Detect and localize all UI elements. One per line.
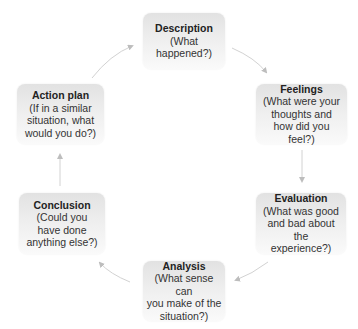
node-description: Description (What happened?) bbox=[143, 13, 225, 69]
node-desc-line: (What bbox=[170, 35, 198, 48]
arrow-description-to-feelings bbox=[232, 48, 266, 72]
node-conclusion: Conclusion (Could you have done anything… bbox=[19, 193, 105, 254]
node-desc-line: (Could you bbox=[37, 211, 88, 224]
node-desc-line: how did you feel?) bbox=[259, 120, 344, 145]
node-desc-line: have done bbox=[37, 224, 86, 237]
node-feelings: Feelings (What were your thoughts and ho… bbox=[256, 84, 347, 144]
arrow-action-to-description bbox=[92, 46, 132, 78]
node-title: Action plan bbox=[32, 89, 89, 102]
node-title: Description bbox=[155, 22, 213, 35]
node-evaluation: Evaluation (What was good and bad about … bbox=[256, 193, 346, 254]
node-action-plan: Action plan (If in a similar situation, … bbox=[17, 84, 104, 144]
node-desc-line: (If in a similar bbox=[29, 102, 91, 115]
node-desc-line: experience?) bbox=[271, 242, 332, 255]
node-desc-line: (What was good bbox=[263, 205, 339, 218]
node-title: Evaluation bbox=[274, 192, 327, 205]
node-desc-line: happened?) bbox=[156, 47, 212, 60]
node-desc-line: you make of the bbox=[147, 297, 222, 310]
node-analysis: Analysis (What sense can you make of the… bbox=[143, 261, 225, 321]
node-desc-line: anything else?) bbox=[26, 236, 97, 249]
node-desc-line: (What were your bbox=[263, 95, 340, 108]
node-title: Analysis bbox=[162, 260, 205, 273]
node-desc-line: thoughts and bbox=[271, 108, 332, 121]
arrow-analysis-to-conclusion bbox=[100, 263, 130, 282]
node-desc-line: situation, what bbox=[27, 114, 94, 127]
arrow-evaluation-to-analysis bbox=[236, 262, 268, 280]
node-desc-line: (What sense can bbox=[146, 272, 222, 297]
node-title: Feelings bbox=[280, 83, 323, 96]
node-title: Conclusion bbox=[33, 199, 90, 212]
node-desc-line: and bad about the bbox=[259, 217, 343, 242]
node-desc-line: situation?) bbox=[160, 310, 208, 323]
node-desc-line: would you do?) bbox=[25, 127, 96, 140]
